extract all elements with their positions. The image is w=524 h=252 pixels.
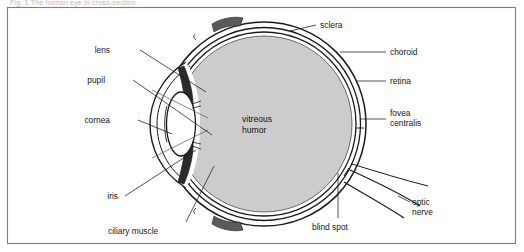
eye-anatomy-figure: Fig. 1 The human eye in cross-section	[0, 0, 524, 252]
label-lens: lens	[95, 45, 110, 55]
label-vitreous-humor-line1: vitreous	[242, 114, 272, 124]
label-fovea-centralis-line1: fovea	[390, 108, 411, 118]
label-optic-nerve-line1: optic	[412, 197, 430, 207]
lens-shape	[167, 92, 196, 156]
eye-cross-section-diagram: lens pupil cornea iris ciliary muscle sc…	[0, 0, 524, 252]
label-ciliary-muscle: ciliary muscle	[108, 226, 159, 236]
label-iris: iris	[107, 191, 118, 201]
label-blind-spot: blind spot	[312, 222, 349, 232]
label-pupil: pupil	[87, 75, 105, 85]
label-fovea-centralis-line2: centralis	[390, 118, 421, 128]
label-sclera: sclera	[320, 20, 343, 30]
label-optic-nerve-line2: nerve	[412, 207, 433, 217]
label-vitreous-humor-line2: humor	[242, 125, 266, 135]
label-retina: retina	[390, 76, 411, 86]
label-choroid: choroid	[390, 47, 418, 57]
vitreous-humor-body	[176, 36, 352, 212]
label-cornea: cornea	[84, 115, 110, 125]
